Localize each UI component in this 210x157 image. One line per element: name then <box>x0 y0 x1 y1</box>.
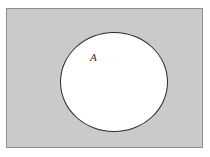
set-a-ellipse <box>60 32 168 132</box>
venn-diagram-figure: A <box>0 0 210 157</box>
set-a-label: A <box>90 51 97 63</box>
